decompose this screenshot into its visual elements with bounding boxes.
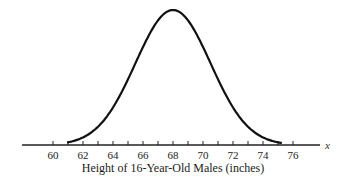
x-tick-label: 64	[108, 149, 120, 161]
x-axis-title: Height of 16-Year-Old Males (inches)	[82, 161, 265, 175]
distribution-curve	[68, 10, 281, 143]
x-axis-tick-labels: 606264666870727476	[48, 149, 300, 161]
x-tick-label: 62	[78, 149, 89, 161]
x-tick-label: 68	[168, 149, 180, 161]
x-tick-label: 74	[258, 149, 270, 161]
normal-curve-chart: 606264666870727476 x Height of 16-Year-O…	[0, 0, 349, 185]
x-tick-label: 70	[198, 149, 210, 161]
x-tick-label: 66	[138, 149, 150, 161]
x-tick-label: 76	[288, 149, 300, 161]
axis-variable-label: x	[324, 139, 330, 151]
x-tick-label: 60	[48, 149, 60, 161]
x-tick-label: 72	[228, 149, 239, 161]
